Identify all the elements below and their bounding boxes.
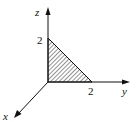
x-axis	[18, 82, 48, 114]
x-axis-label: x	[2, 110, 8, 122]
y-axis-arrow-icon	[122, 80, 130, 85]
hatched-triangle-region	[48, 38, 92, 82]
coordinate-diagram: z 2 2 y x	[0, 0, 138, 122]
z-tick-label: 2	[37, 34, 43, 46]
z-axis-label: z	[34, 6, 40, 18]
y-axis-label: y	[121, 85, 127, 97]
z-axis-arrow-icon	[46, 7, 51, 15]
y-tick-label: 2	[88, 85, 94, 97]
